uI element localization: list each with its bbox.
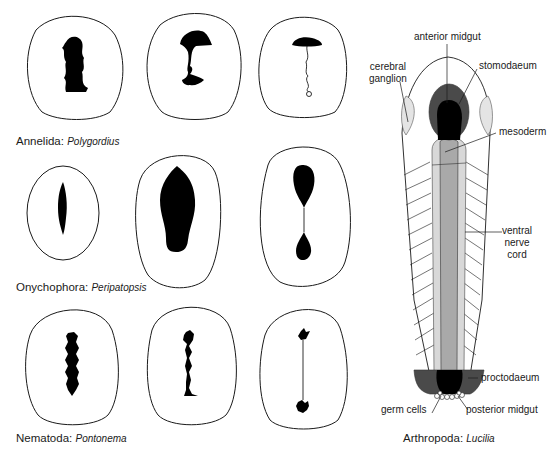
caption-onychophora: Onychophora: Peripatopsis — [16, 281, 146, 293]
arthropoda-embryo — [400, 44, 502, 413]
caption-genus: Lucilia — [466, 433, 494, 444]
diagram-canvas — [0, 0, 560, 453]
label-mesoderm: mesoderm — [499, 126, 546, 138]
blastopore-shape — [160, 166, 195, 252]
posterior-midgut — [436, 370, 462, 394]
blastopore-shape — [183, 330, 198, 396]
nematoda-stage-2 — [147, 307, 236, 425]
blastopore-shape — [65, 332, 79, 396]
mouth-star-icon — [298, 328, 310, 340]
label-posterior-midgut: posterior midgut — [466, 404, 538, 416]
blastopore-shape — [62, 37, 88, 92]
label-germ-cells: germ cells — [381, 404, 427, 416]
label-stomodaeum: stomodaeum — [479, 60, 537, 72]
onychophora-stage-1 — [27, 166, 99, 260]
caption-genus: Polygordius — [67, 136, 119, 147]
caption-arthropoda: Arthropoda: Lucilia — [403, 432, 495, 444]
caption-phylum: Annelida: — [16, 135, 64, 147]
annelida-stage-2 — [147, 14, 241, 120]
caption-nematoda: Nematoda: Pontonema — [16, 432, 127, 444]
nematoda-stage-3 — [260, 310, 347, 429]
onychophora-stage-3 — [260, 147, 350, 286]
label-cerebral-ganglion: cerebral ganglion — [369, 61, 407, 85]
blastopore-shape — [58, 182, 67, 235]
caption-annelida: Annelida: Polygordius — [16, 135, 119, 147]
caption-genus: Pontonema — [75, 433, 126, 444]
mesoderm — [440, 139, 458, 372]
caption-phylum: Arthropoda: — [403, 432, 463, 444]
nematoda-stage-1 — [26, 310, 119, 425]
label-ventral-nerve-cord: ventral nerve cord — [502, 225, 532, 261]
anus-shape — [296, 232, 311, 260]
label-anterior-midgut: anterior midgut — [414, 31, 481, 43]
mouth-shape — [292, 37, 322, 46]
onychophora-stage-2 — [136, 156, 221, 288]
annelida-stage-3 — [259, 17, 347, 117]
mouth-shape — [293, 165, 314, 208]
anus-star-icon — [296, 400, 309, 413]
anterior-midgut — [437, 100, 462, 140]
anus-icon — [307, 92, 312, 97]
closure-line — [306, 46, 309, 92]
label-proctodaeum: proctodaeum — [481, 372, 539, 384]
caption-genus: Peripatopsis — [91, 282, 146, 293]
blastopore-shape — [180, 31, 212, 86]
caption-phylum: Onychophora: — [16, 281, 88, 293]
annelida-stage-1 — [27, 16, 122, 119]
caption-phylum: Nematoda: — [16, 432, 72, 444]
